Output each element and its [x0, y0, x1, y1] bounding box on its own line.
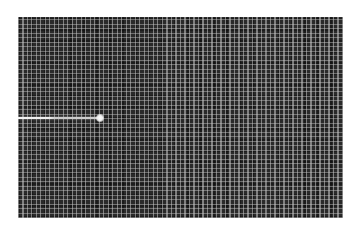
grid-panel [18, 17, 343, 218]
horizontal-trace-line [18, 117, 100, 119]
canvas [0, 0, 358, 232]
trace-endpoint-dot [96, 114, 104, 122]
